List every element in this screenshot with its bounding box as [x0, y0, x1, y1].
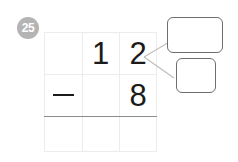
cell-row1-col2: 1	[82, 32, 119, 74]
cell-row3-col2[interactable]	[82, 116, 119, 152]
minus-icon	[53, 94, 74, 96]
cell-row1-col3: 2	[119, 32, 157, 74]
answer-box-bottom[interactable]	[176, 58, 216, 93]
cell-row1-col1[interactable]	[44, 32, 82, 74]
cell-row2-col1-operator	[44, 74, 82, 116]
worksheet-canvas: 25 1 2 8	[0, 0, 238, 162]
cell-row2-col2[interactable]	[82, 74, 119, 116]
answer-box-top[interactable]	[167, 17, 223, 53]
cell-row3-col3[interactable]	[119, 116, 157, 152]
cell-row2-col3: 8	[119, 74, 157, 116]
cell-row3-col1[interactable]	[44, 116, 82, 152]
problem-number-badge: 25	[17, 17, 39, 39]
arithmetic-grid: 1 2 8	[44, 32, 157, 152]
